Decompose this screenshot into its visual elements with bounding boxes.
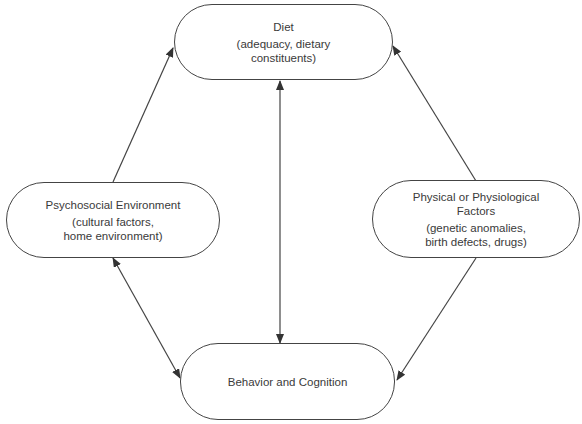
node-psychosocial: Psychosocial Environment (cultural facto…	[6, 182, 220, 258]
node-physical-title2: Factors	[457, 204, 495, 218]
node-physical-title: Physical or Physiological	[413, 190, 540, 204]
node-physical-line3: birth defects, drugs)	[425, 235, 527, 249]
node-diet-line2: (adequacy, dietary	[237, 37, 331, 51]
node-psychosocial-title: Psychosocial Environment	[46, 198, 181, 212]
node-physical: Physical or Physiological Factors (genet…	[372, 180, 580, 258]
node-diet-title: Diet	[273, 20, 293, 34]
edge-physical-to-behavior	[397, 258, 476, 380]
edge-psychosocial-behavior	[113, 258, 180, 378]
node-behavior: Behavior and Cognition	[180, 343, 395, 420]
node-behavior-title: Behavior and Cognition	[228, 375, 348, 389]
edge-physical-to-diet	[393, 46, 476, 181]
node-psychosocial-line2: (cultural factors,	[72, 215, 154, 229]
node-diet-line3: constituents)	[251, 51, 316, 65]
node-physical-line2: (genetic anomalies,	[426, 221, 526, 235]
node-psychosocial-line3: home environment)	[63, 229, 162, 243]
node-diet: Diet (adequacy, dietary constituents)	[174, 4, 393, 80]
edge-psychosocial-to-diet	[113, 48, 173, 182]
